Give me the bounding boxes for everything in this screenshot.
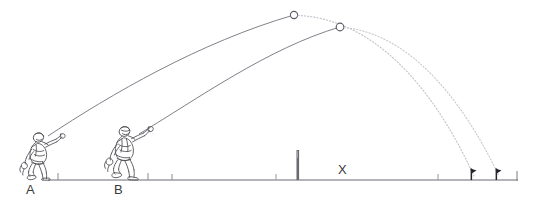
post-highlight [297,151,298,158]
label-distance-x: X [338,162,347,177]
thrower-figure-b [104,125,153,180]
thrower-figure-a [20,132,65,181]
vertical-post-group [297,150,300,180]
apex-marker-a [290,11,297,18]
trajectory-a-descending [298,15,474,176]
label-thrower-b: B [114,182,123,197]
trajectory-b-descending [344,28,499,176]
label-thrower-a: A [26,182,35,197]
trajectory-b-ascending [139,27,340,134]
ground-line-group [48,171,518,181]
landing-marker-a [471,169,477,181]
apex-marker-b [336,23,344,31]
diagram-canvas [0,0,535,203]
trajectory-a-ascending [48,15,294,136]
projectile-diagram: A B X [0,0,535,203]
